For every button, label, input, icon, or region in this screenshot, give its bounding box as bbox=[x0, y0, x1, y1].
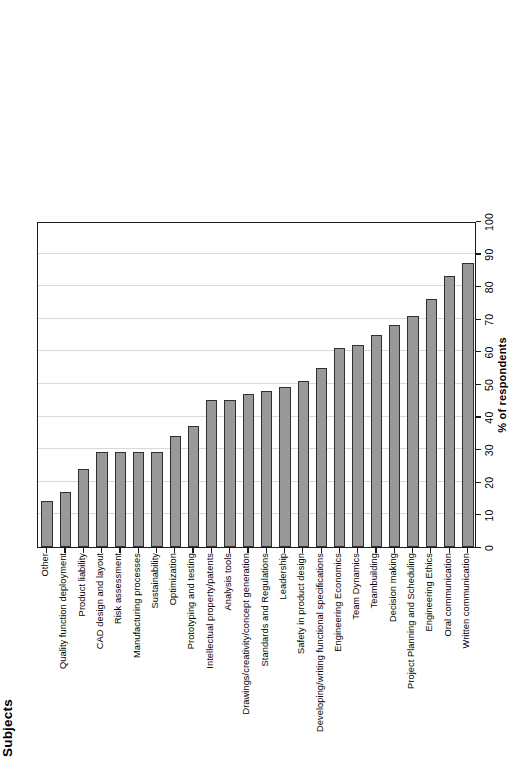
category-axis-tick bbox=[449, 548, 450, 553]
value-axis-tick bbox=[476, 514, 481, 515]
category-axis-label: Teambuilding bbox=[370, 553, 379, 608]
value-axis-tick bbox=[476, 319, 481, 320]
bar bbox=[352, 345, 363, 547]
bar bbox=[426, 299, 437, 547]
category-axis-tick bbox=[229, 548, 230, 553]
category-axis-label: Quality function deployment bbox=[59, 553, 68, 669]
category-axis-label: Intellectual property/patents bbox=[206, 553, 215, 669]
category-axis-tick bbox=[430, 548, 431, 553]
bar bbox=[115, 452, 126, 547]
category-axis-label: Safety in product design bbox=[297, 553, 306, 654]
category-axis-tick bbox=[266, 548, 267, 553]
category-axis-tick bbox=[211, 548, 212, 553]
bar-chart-figure: Subjects OtherQuality function deploymen… bbox=[0, 0, 529, 757]
category-axis-tick bbox=[174, 548, 175, 553]
category-axis-label: Analysis tools bbox=[224, 553, 233, 611]
bar bbox=[188, 426, 199, 547]
category-axis-tick bbox=[357, 548, 358, 553]
bar bbox=[41, 501, 52, 547]
bar bbox=[279, 387, 290, 547]
category-axis-label: Team Dynamics bbox=[352, 553, 361, 620]
category-axis-tick bbox=[247, 548, 248, 553]
bar bbox=[60, 492, 71, 547]
value-axis-tick bbox=[476, 449, 481, 450]
value-axis-tick bbox=[476, 547, 481, 548]
bar bbox=[298, 381, 309, 547]
bar bbox=[407, 316, 418, 547]
category-axis-tick bbox=[467, 548, 468, 553]
category-axis-tick bbox=[83, 548, 84, 553]
bar bbox=[170, 436, 181, 547]
bar bbox=[96, 452, 107, 547]
category-axis-label: Product liability bbox=[78, 553, 87, 616]
category-axis-label: Leadership bbox=[279, 553, 288, 600]
category-axis-tick bbox=[101, 548, 102, 553]
bar bbox=[206, 400, 217, 547]
category-axis-tick bbox=[321, 548, 322, 553]
category-axis-label: Decision making bbox=[389, 553, 398, 622]
category-axis-labels: OtherQuality function deploymentProduct … bbox=[37, 553, 476, 757]
category-axis-label: Engineering Economics bbox=[334, 553, 343, 652]
category-axis-label: Sustainability bbox=[151, 553, 160, 608]
value-axis-tick bbox=[476, 286, 481, 287]
category-axis-label: Project Planning and Scheduling bbox=[407, 553, 416, 689]
category-axis-tick bbox=[394, 548, 395, 553]
category-axis-label: Standards and Regulations bbox=[261, 553, 270, 666]
gridline bbox=[38, 253, 475, 254]
category-axis-label: Other bbox=[41, 553, 50, 577]
category-axis-label: Prototyping and testing bbox=[187, 553, 196, 649]
bar bbox=[462, 263, 473, 547]
category-axis-title: Subjects bbox=[0, 637, 15, 757]
category-axis-label: Optimization bbox=[169, 553, 178, 605]
category-axis-tick bbox=[302, 548, 303, 553]
category-axis-label: Drawings/creativity/concept generation bbox=[242, 553, 251, 715]
category-axis-tick bbox=[412, 548, 413, 553]
plot-area bbox=[37, 222, 476, 548]
value-axis-tick-label: 100 bbox=[483, 202, 495, 242]
bar bbox=[151, 452, 162, 547]
value-axis-tick bbox=[476, 253, 481, 254]
category-axis-label: Developing/writing functional specificat… bbox=[316, 553, 325, 732]
bar bbox=[371, 335, 382, 547]
bar bbox=[389, 325, 400, 547]
bar bbox=[133, 452, 144, 547]
category-axis-tick bbox=[375, 548, 376, 553]
bar bbox=[261, 391, 272, 547]
category-axis-label: CAD design and layout bbox=[96, 553, 105, 649]
category-axis-tick bbox=[138, 548, 139, 553]
value-axis-tick bbox=[476, 416, 481, 417]
bar bbox=[78, 469, 89, 547]
category-axis-label: Manufacturing processes bbox=[133, 553, 142, 658]
bar bbox=[334, 348, 345, 547]
value-axis-tick bbox=[476, 221, 481, 222]
bar bbox=[316, 368, 327, 547]
gridline bbox=[38, 285, 475, 286]
category-axis-label: Written communication bbox=[462, 553, 471, 648]
category-axis-tick bbox=[46, 548, 47, 553]
bar bbox=[444, 276, 455, 547]
category-axis-label: Risk assessment bbox=[114, 553, 123, 624]
category-axis-tick bbox=[119, 548, 120, 553]
category-axis-label: Oral communication bbox=[444, 553, 453, 637]
bar bbox=[243, 394, 254, 547]
category-axis-tick bbox=[284, 548, 285, 553]
value-axis-title: % of respondents bbox=[496, 222, 508, 548]
value-axis-tick bbox=[476, 482, 481, 483]
value-axis-tick bbox=[476, 351, 481, 352]
value-axis-tick bbox=[476, 384, 481, 385]
category-axis-label: Engineering Ethics bbox=[425, 553, 434, 631]
bar bbox=[224, 400, 235, 547]
category-axis-tick bbox=[192, 548, 193, 553]
category-axis-tick bbox=[156, 548, 157, 553]
category-axis-tick bbox=[339, 548, 340, 553]
category-axis-tick bbox=[64, 548, 65, 553]
